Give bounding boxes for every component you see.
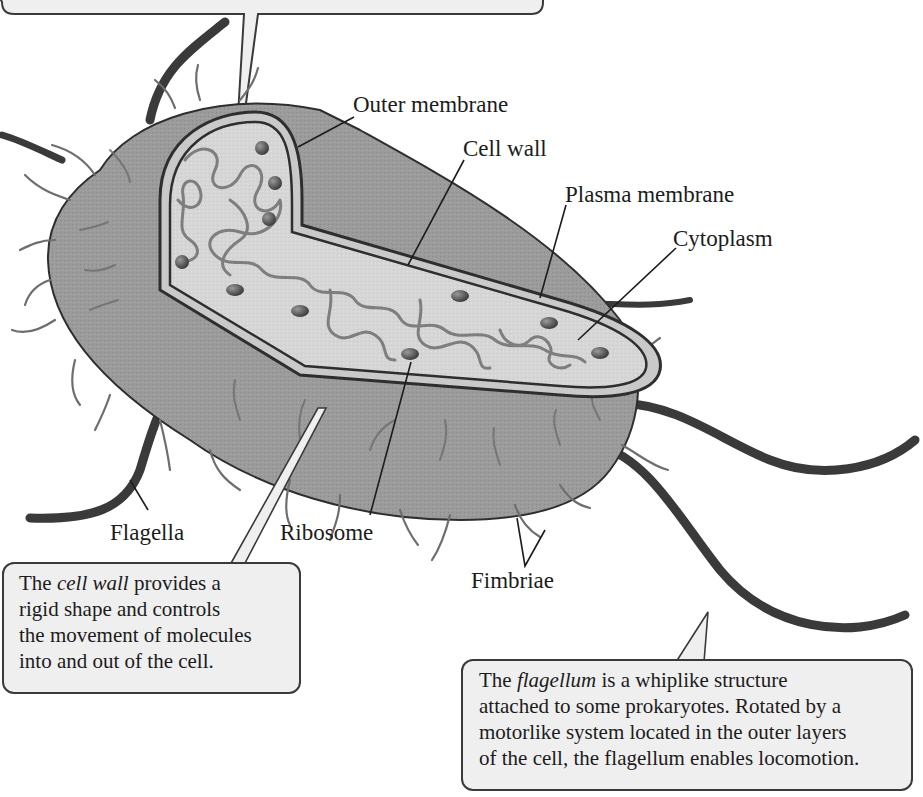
label-fimbriae: Fimbriae: [471, 568, 554, 594]
callout-cell-wall-line-3: the movement of molecules: [19, 622, 299, 648]
label-plasma-membrane: Plasma membrane: [565, 182, 734, 208]
callout-flagellum-line-3: motorlike system located in the outer la…: [479, 719, 911, 745]
label-outer-membrane: Outer membrane: [353, 92, 508, 118]
callout-cell-wall-line-2: rigid shape and controls: [19, 596, 299, 622]
prokaryote-diagram: Outer membrane Cell wall Plasma membrane…: [0, 0, 923, 797]
label-cytoplasm: Cytoplasm: [673, 226, 773, 252]
callout-cell-wall-line-4: into and out of the cell.: [19, 648, 299, 674]
callout-flagellum-line-4: of the cell, the flagellum enables locom…: [479, 745, 911, 771]
term-cell-wall: cell wall: [57, 571, 129, 595]
leader-flagella: [130, 480, 148, 510]
callout-flagellum-line-1: The flagellum is a whiplike structure: [479, 667, 911, 693]
label-ribosome: Ribosome: [280, 520, 373, 546]
label-cell-wall: Cell wall: [463, 136, 547, 162]
term-flagellum: flagellum: [517, 668, 596, 692]
callout-flagellum-line-2: attached to some prokaryotes. Rotated by…: [479, 693, 911, 719]
leader-fimbriae: [517, 518, 545, 566]
callout-cell-wall-line-1: The cell wall provides a: [19, 570, 299, 596]
callout-flagellum: The flagellum is a whiplike structure at…: [461, 659, 913, 791]
label-flagella: Flagella: [110, 520, 184, 546]
callout-cell-wall: The cell wall provides a rigid shape and…: [2, 562, 301, 694]
